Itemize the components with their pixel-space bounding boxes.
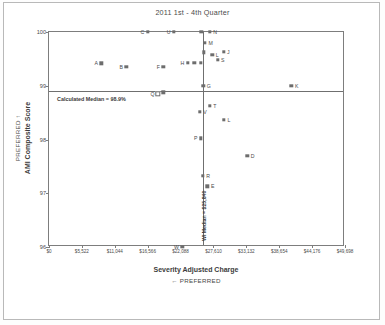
data-point-label: R [206,173,210,179]
data-point-label: Q [150,91,154,97]
y-tick-mark [46,86,49,87]
data-point-c [146,30,149,33]
x-tick-label: $33,132 [238,249,255,254]
data-point-label: K [295,83,298,89]
data-point-label: E [211,183,214,189]
x-tick-label: $0 [46,249,51,254]
data-point-v [198,110,201,113]
data-point-f [162,65,165,68]
data-point-label: H [181,60,185,66]
x-tick-label: $5,522 [75,249,89,254]
data-point-q [155,91,160,96]
wi-median-label: WI Median = $25,840 [201,191,207,241]
x-tick-mark [49,245,50,248]
x-axis-title: Severity Adjusted Charge [48,266,344,273]
data-point-l [210,53,213,56]
x-tick-label: $49,698 [337,249,354,254]
x-tick-mark [115,245,116,248]
x-tick-mark [82,245,83,248]
data-point-label: J [227,49,230,55]
data-point-label: L [228,117,231,123]
data-point [200,30,203,33]
data-point-s [216,58,219,61]
data-point-u [172,30,175,33]
x-preferred-text: PREFERRED [180,277,221,284]
data-point-l [222,118,225,121]
x-tick-mark [312,245,313,248]
data-point-label: G [207,83,211,89]
data-point-n [208,30,211,33]
data-point-k [290,84,293,87]
data-point-j [222,50,225,53]
data-point-p [199,137,202,140]
y-tick-label: 99 [40,83,46,89]
data-point-r [201,174,204,177]
data-point [162,90,165,93]
y-tick-label: 100 [37,29,46,35]
x-tick-mark [279,245,280,248]
x-tick-label: $11,044 [107,249,123,254]
data-point-label: U [167,29,171,35]
x-tick-label: $16,566 [139,249,156,254]
data-point-d [246,154,249,157]
x-axis-preferred-note: ← PREFERRED [48,277,344,284]
x-tick-label: $44,176 [304,249,321,254]
data-point-g [202,84,205,87]
data-point-label: N [213,29,217,35]
data-point-label: F [157,64,160,70]
y-tick-label: 98 [40,137,46,143]
data-point-label: M [209,40,213,46]
x-preferred-arrow-icon: ← [171,277,178,284]
data-point-label: S [221,57,224,63]
x-tick-label: $38,654 [271,249,288,254]
data-point-h [186,61,189,64]
data-point-label: W [174,244,179,250]
data-point-label: A [94,60,97,66]
y-tick-mark [46,140,49,141]
plot-inner: 96979899100$0$5,522$11,044$16,566$22,088… [49,32,343,245]
chart-title: 2011 1st - 4th Quarter [0,8,385,17]
y-tick-mark [46,193,49,194]
data-point [199,61,202,64]
calculated-median-label: Calculated Median = 98.9% [57,96,126,102]
calculated-median-horizontal [49,91,343,92]
y-axis-title: AMI Composite Score [24,102,31,174]
data-point [193,61,196,64]
x-tick-label: $27,610 [205,249,222,254]
y-tick-mark [46,32,49,33]
data-point-label: P [194,135,197,141]
data-point-m [203,41,206,44]
x-tick-mark [246,245,247,248]
chart-page: 2011 1st - 4th Quarter 96979899100$0$5,5… [0,0,385,325]
y-preferred-text: PREFERRED [14,120,21,161]
plot-area: 96979899100$0$5,522$11,044$16,566$22,088… [48,31,344,246]
data-point-label: V [203,109,206,115]
x-tick-mark [148,245,149,248]
data-point-b [125,65,128,68]
x-tick-mark [345,245,346,248]
data-point-label: D [251,153,255,159]
y-preferred-arrow-icon: ↑ [14,115,21,118]
data-point-t [208,104,211,107]
y-tick-label: 96 [40,244,46,250]
data-point-a [100,61,103,64]
x-tick-mark [213,245,214,248]
data-point-w [181,245,184,248]
data-point [202,51,205,54]
data-point-e [206,185,209,188]
data-point-label: T [213,103,216,109]
y-tick-label: 97 [40,190,46,196]
data-point-label: B [119,64,122,70]
y-axis-preferred-note: PREFERRED ↑ [14,115,21,161]
data-point-label: C [141,29,145,35]
data-point-label: L [216,52,219,58]
